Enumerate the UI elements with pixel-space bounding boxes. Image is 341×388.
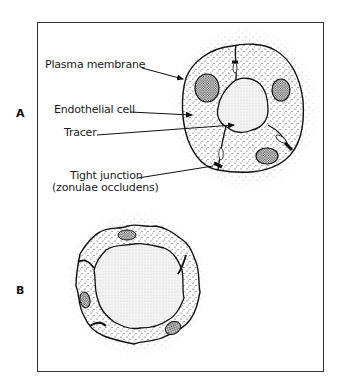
leader-plasma-membrane — [142, 68, 183, 79]
panel-a-capillary — [171, 25, 319, 191]
panel-b-capillary — [66, 211, 208, 357]
capillary-diagram — [0, 0, 341, 388]
